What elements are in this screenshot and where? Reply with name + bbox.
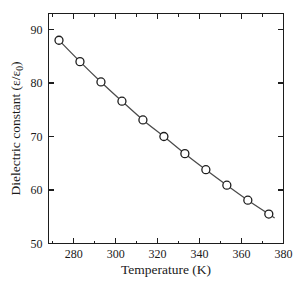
- x-tick-label: 380: [275, 247, 293, 261]
- data-point-marker: [139, 116, 147, 124]
- x-tick-label: 280: [65, 247, 83, 261]
- y-axis-title-text: Dielectric constant (ε/ε0): [8, 62, 25, 196]
- y-tick-label: 60: [31, 183, 43, 197]
- x-tick-label: 300: [107, 247, 125, 261]
- x-tick-label: 360: [233, 247, 251, 261]
- data-point-marker: [97, 78, 105, 86]
- data-point-marker: [244, 196, 252, 204]
- y-tick-label: 80: [31, 76, 43, 90]
- y-axis-title: Dielectric constant (ε/ε0): [8, 62, 25, 196]
- data-point-marker: [118, 97, 126, 105]
- y-tick-label: 70: [31, 130, 43, 144]
- dielectric-constant-chart: 280300320340360380 5060708090 Temperatur…: [0, 0, 304, 284]
- data-point-marker: [160, 133, 168, 141]
- x-tick-label: 340: [191, 247, 209, 261]
- chart-background: [0, 0, 304, 284]
- data-point-marker: [265, 210, 273, 218]
- x-tick-label: 320: [149, 247, 167, 261]
- data-point-marker: [223, 181, 231, 189]
- data-point-marker: [76, 58, 84, 66]
- x-axis-title: Temperature (K): [121, 262, 211, 277]
- y-tick-label: 50: [31, 237, 43, 251]
- data-point-marker: [55, 36, 63, 44]
- data-point-marker: [181, 150, 189, 158]
- data-point-marker: [202, 166, 210, 174]
- figure-container: 280300320340360380 5060708090 Temperatur…: [0, 0, 304, 284]
- y-tick-label: 90: [31, 23, 43, 37]
- x-axis-title-text: Temperature (K): [121, 262, 211, 277]
